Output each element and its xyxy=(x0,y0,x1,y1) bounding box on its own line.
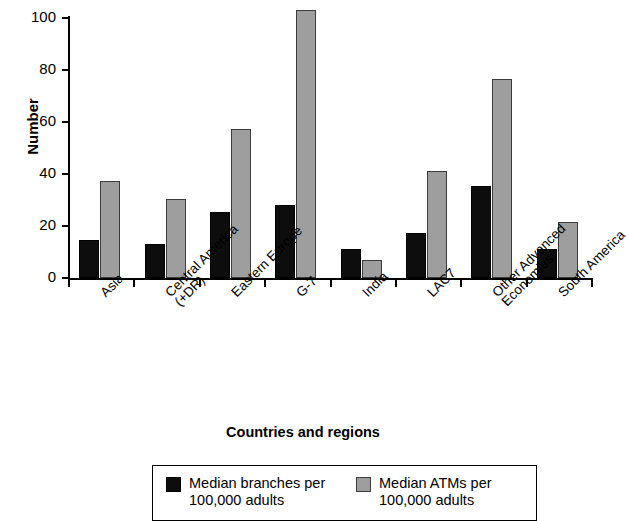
x-axis-tick-mark xyxy=(68,280,70,287)
bar-atms xyxy=(166,199,186,278)
chart-legend: Median branches per 100,000 adults Media… xyxy=(152,465,537,521)
legend-entry-atms: Median ATMs per 100,000 adults xyxy=(356,475,492,509)
y-axis-tick-label: 100 xyxy=(16,9,56,24)
x-axis-tick-mark xyxy=(264,280,266,287)
legend-label-atms: Median ATMs per 100,000 adults xyxy=(379,475,492,509)
bar-branches xyxy=(145,244,165,278)
plot-area xyxy=(68,18,591,278)
bar-branches xyxy=(406,233,426,279)
legend-swatch-branches-icon xyxy=(166,477,181,492)
bar-atms xyxy=(492,79,512,278)
legend-entry-branches: Median branches per 100,000 adults xyxy=(166,475,325,509)
bar-atms xyxy=(100,181,120,279)
x-axis-title: Countries and regions xyxy=(0,424,606,440)
x-axis-tick-mark xyxy=(395,280,397,287)
x-axis-tick-mark xyxy=(330,280,332,287)
y-axis-tick-label: 20 xyxy=(16,217,56,232)
legend-label-branches: Median branches per 100,000 adults xyxy=(189,475,325,509)
y-axis-tick-label: 0 xyxy=(16,269,56,284)
y-axis-tick-label: 60 xyxy=(16,113,56,128)
y-axis-tick-label: 40 xyxy=(16,165,56,180)
x-axis-tick-mark xyxy=(460,280,462,287)
x-axis-tick-mark xyxy=(591,280,593,287)
bar-atms xyxy=(427,171,447,278)
bar-branches xyxy=(471,186,491,278)
bar-branches xyxy=(341,249,361,278)
legend-swatch-atms-icon xyxy=(356,477,371,492)
x-axis-tick-mark xyxy=(133,280,135,287)
y-axis-tick-label: 80 xyxy=(16,61,56,76)
bar-branches xyxy=(79,240,99,278)
